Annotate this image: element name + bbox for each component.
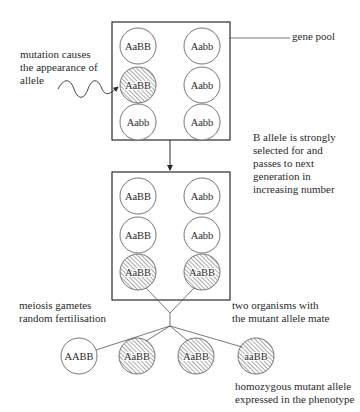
homozygous-label: homozygous mutant allele expressed in th… xyxy=(235,380,354,406)
cross-lines xyxy=(96,288,242,350)
organism-circle: Aabb xyxy=(184,104,220,140)
mutant-organism-circle: AaBB xyxy=(184,254,220,290)
organism-circle: Aabb xyxy=(184,178,220,214)
svg-text:AaBB: AaBB xyxy=(124,351,150,362)
mutant-organism-circle: AaBB xyxy=(120,67,156,103)
svg-text:AaBB: AaBB xyxy=(183,351,209,362)
svg-text:AaBB: AaBB xyxy=(125,191,151,202)
organism-circle: AaBB xyxy=(120,28,156,64)
organism-circle: AaBB xyxy=(120,217,156,253)
svg-text:AaBB: AaBB xyxy=(125,41,151,52)
mutant-organism-circle: AaBB xyxy=(120,254,156,290)
gene-pool-label: gene pool xyxy=(292,30,335,43)
svg-text:aaBB: aaBB xyxy=(244,351,267,362)
svg-text:Aabb: Aabb xyxy=(191,80,214,91)
svg-text:AaBB: AaBB xyxy=(189,267,215,278)
svg-text:AaBB: AaBB xyxy=(125,230,151,241)
organism-circle: Aabb xyxy=(184,28,220,64)
svg-text:AABB: AABB xyxy=(64,351,93,362)
mating-label: two organisms with the mutant allele mat… xyxy=(232,299,329,325)
mutant-offspring-circle: AaBB xyxy=(119,338,155,374)
svg-text:Aabb: Aabb xyxy=(191,230,214,241)
mutation-label: mutation causes the appearance of allele xyxy=(20,48,98,87)
svg-text:AaBB: AaBB xyxy=(125,80,151,91)
svg-text:Aabb: Aabb xyxy=(127,117,150,128)
organism-circle: AaBB xyxy=(120,178,156,214)
organism-circle: Aabb xyxy=(120,104,156,140)
svg-text:Aabb: Aabb xyxy=(191,41,214,52)
offspring-circle: AABB xyxy=(61,338,97,374)
svg-text:Aabb: Aabb xyxy=(191,191,214,202)
mutant-offspring-circle: AaBB xyxy=(178,338,214,374)
homozygous-offspring-circle: aaBB xyxy=(238,338,274,374)
svg-text:AaBB: AaBB xyxy=(125,267,151,278)
svg-text:Aabb: Aabb xyxy=(191,117,214,128)
organism-circle: Aabb xyxy=(184,217,220,253)
organism-circle: Aabb xyxy=(184,67,220,103)
selection-label: B allele is strongly selected for and pa… xyxy=(253,131,336,196)
meiosis-label: meiosis gametes random fertilisation xyxy=(19,299,106,325)
